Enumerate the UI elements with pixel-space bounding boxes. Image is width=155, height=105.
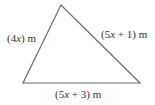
left-side-label: (4x) m xyxy=(7,32,36,45)
bottom-side-label: (5x + 3) m xyxy=(55,88,102,101)
triangle-diagram: (4x) m (5x + 1) m (5x + 3) m xyxy=(0,0,155,105)
right-side-label: (5x + 1) m xyxy=(101,28,148,41)
triangle xyxy=(23,5,140,83)
